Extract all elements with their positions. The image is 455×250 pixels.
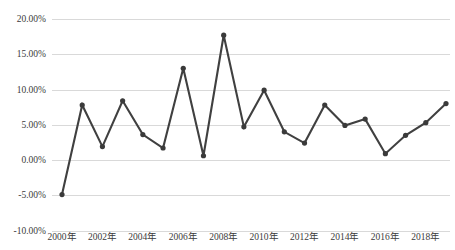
x-tick-label: 2008年	[209, 229, 238, 243]
x-axis-tick-labels: 2000年2002年2004年2006年2008年2010年2012年2014年…	[0, 0, 455, 250]
x-tick-label: 2004年	[128, 229, 157, 243]
x-tick-label: 2006年	[169, 229, 198, 243]
x-tick-label: 2018年	[411, 229, 440, 243]
x-tick-label: 2010年	[250, 229, 279, 243]
x-tick-label: 2002年	[88, 229, 117, 243]
x-tick-label: 2012年	[290, 229, 319, 243]
x-tick-label: 2016年	[371, 229, 400, 243]
x-tick-label: 2014年	[330, 229, 359, 243]
chart-page: 20.00%15.00%10.00%5.00%0.00%-5.00%-10.00…	[0, 0, 455, 250]
x-tick-label: 2000年	[48, 229, 77, 243]
